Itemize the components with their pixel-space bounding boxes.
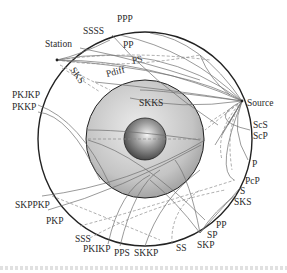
label-station: Station bbox=[45, 39, 72, 49]
label-s: S bbox=[240, 186, 245, 196]
label-sp: SP bbox=[207, 230, 218, 240]
label-pcp: PcP bbox=[245, 176, 260, 186]
label-ssss: SSSS bbox=[83, 26, 104, 36]
label-pkp: PKP bbox=[46, 216, 63, 226]
cropped-caption-line bbox=[0, 266, 287, 270]
label-scs: ScS bbox=[253, 120, 268, 130]
seismic-ray-diagram: PPPSSSSStationPPSKSPdiffPSPKJKPPKKPSKKSS… bbox=[0, 0, 287, 273]
label-skppkp: SKPPKP bbox=[15, 200, 50, 210]
label-pkikp: PKIKP bbox=[83, 244, 110, 254]
station-point bbox=[56, 59, 59, 62]
label-skp: SKP bbox=[197, 240, 214, 250]
label-source: Source bbox=[247, 98, 273, 108]
label-sks-bottom: SKS bbox=[234, 197, 251, 207]
label-pp-top: PP bbox=[123, 40, 134, 50]
label-pkjkp: PKJKP bbox=[12, 90, 40, 100]
label-skks: SKKS bbox=[139, 98, 163, 108]
label-scp: ScP bbox=[253, 131, 268, 141]
label-ss: SS bbox=[176, 243, 187, 253]
label-skkp: SKKP bbox=[134, 248, 158, 258]
label-pps: PPS bbox=[114, 248, 130, 258]
source-point bbox=[241, 100, 244, 103]
diagram-canvas: PPPSSSSStationPPSKSPdiffPSPKJKPPKKPSKKSS… bbox=[0, 0, 287, 273]
label-p: P bbox=[252, 159, 257, 169]
label-pp-bottom: PP bbox=[216, 220, 227, 230]
label-sss: SSS bbox=[75, 234, 91, 244]
label-ppp: PPP bbox=[117, 14, 133, 24]
label-pkkp: PKKP bbox=[12, 102, 36, 112]
